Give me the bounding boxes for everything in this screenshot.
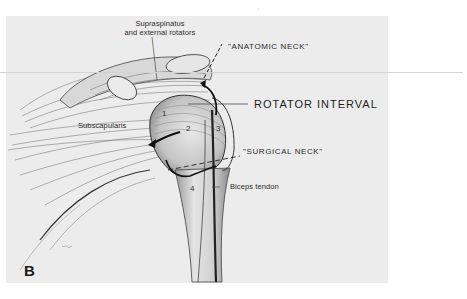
label-biceps-tendon: Biceps tendon [230,183,279,191]
region-number-2: 2 [186,125,190,133]
panel-letter: B [24,263,35,278]
label-supraspinatus-line2: and external rotators [110,29,210,37]
label-supraspinatus-line1: Supraspinatus [110,20,210,28]
label-anatomic-neck: "ANATOMIC NECK" [228,43,309,51]
label-subscapularis: Subscapularis [78,122,126,130]
scan-artifact-line [0,72,463,73]
region-number-4: 4 [190,185,194,193]
label-surgical-neck: "SURGICAL NECK" [243,148,323,156]
label-supraspinatus: Supraspinatus and external rotators [110,20,210,36]
humerus-shaft [175,168,230,282]
region-number-3: 3 [216,125,220,133]
label-rotator-interval: ROTATOR INTERVAL [254,99,378,110]
region-number-1: 1 [162,110,166,118]
artist-signature-mark [62,246,72,248]
